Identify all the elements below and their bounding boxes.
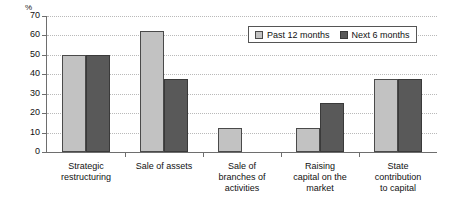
bar-next-2: [164, 79, 188, 152]
chart-legend: Past 12 months Next 6 months: [248, 26, 417, 43]
bar-past-2: [140, 31, 164, 152]
legend-label-next: Next 6 months: [352, 30, 410, 40]
x-tick-mark-2: [203, 153, 204, 157]
x-tick-mark-4: [359, 153, 360, 157]
bar-past-4: [296, 128, 320, 152]
legend-label-past: Past 12 months: [267, 30, 330, 40]
y-tick-label-20: 20: [14, 108, 40, 117]
x-axis-line: [46, 152, 437, 153]
y-tick-mark-0: [42, 152, 47, 153]
legend-swatch-icon-next: [340, 31, 348, 39]
y-tick-label-60: 60: [14, 30, 40, 39]
bar-next-5: [398, 79, 422, 152]
category-label-2: Sale of assets: [125, 161, 203, 172]
category-label-3: Sale ofbranches ofactivities: [203, 161, 281, 194]
legend-item-next-6-months: Next 6 months: [340, 30, 410, 40]
legend-item-past-12-months: Past 12 months: [255, 30, 330, 40]
category-label-4: Raisingcapital on themarket: [281, 161, 359, 194]
y-tick-label-70: 70: [14, 11, 40, 20]
bar-chart: % 706050403020100 Strategicrestructuring…: [0, 0, 449, 210]
bar-next-4: [320, 103, 344, 152]
bar-group-1: [62, 16, 110, 152]
bar-past-5: [374, 79, 398, 152]
bar-group-2: [140, 16, 188, 152]
y-tick-label-40: 40: [14, 69, 40, 78]
category-label-1: Strategicrestructuring: [47, 161, 125, 183]
legend-swatch-icon-past: [255, 31, 263, 39]
bar-past-1: [62, 55, 86, 152]
bar-next-1: [86, 55, 110, 152]
bar-past-3: [218, 128, 242, 152]
category-label-5: Statecontributionto capital: [359, 161, 437, 194]
y-tick-label-0: 0: [14, 147, 40, 156]
y-tick-label-10: 10: [14, 128, 40, 137]
x-tick-mark-3: [281, 153, 282, 157]
x-tick-mark-1: [125, 153, 126, 157]
y-tick-label-30: 30: [14, 89, 40, 98]
y-tick-label-50: 50: [14, 50, 40, 59]
